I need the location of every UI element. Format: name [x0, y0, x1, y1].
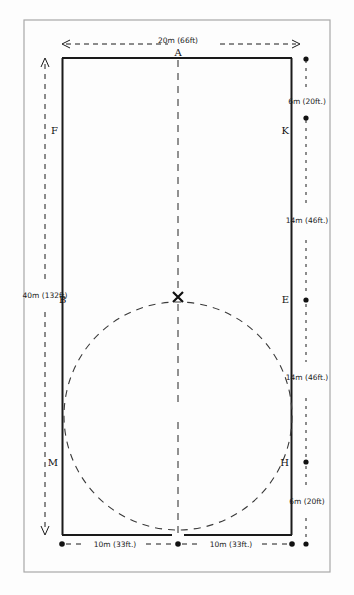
- top-dimension-label: 20m (66ft): [158, 36, 198, 45]
- left-dimension-arrow-down: [41, 526, 49, 535]
- right-dimension-label-6m-bottom: 6m (20ft): [289, 497, 324, 506]
- point-label-e: E: [282, 294, 289, 305]
- point-label-m: M: [48, 457, 58, 468]
- right-station-dot-e: [303, 297, 308, 302]
- point-label-h: H: [280, 457, 289, 468]
- right-station-dot-top: [303, 56, 308, 61]
- bottom-dimension-label-right: 10m (33ft.): [210, 540, 253, 549]
- bottom-dimension-label-left: 10m (33ft.): [94, 540, 137, 549]
- right-dimension-label-14m-lower: 14m (46ft.): [286, 373, 329, 382]
- point-label-a: A: [173, 47, 182, 58]
- center-x-mark: [173, 292, 183, 302]
- point-label-b: B: [59, 294, 66, 305]
- right-station-dot-k: [303, 115, 308, 120]
- drawing-sheet: 20m (66ft): [0, 0, 354, 595]
- bottom-station-dot-center: [175, 541, 181, 547]
- right-station-dot-bottom: [303, 541, 308, 546]
- right-station-dot-h: [303, 459, 308, 464]
- bottom-station-dot-left: [59, 541, 65, 547]
- point-label-f: F: [51, 125, 58, 136]
- bottom-dimension-group: 10m (33ft.) 10m (33ft.): [59, 540, 295, 549]
- point-label-k: K: [282, 125, 290, 136]
- bottom-station-dot-right: [289, 541, 295, 547]
- field-layout-diagram: 20m (66ft): [0, 0, 354, 595]
- right-dimension-label-14m-upper: 14m (46ft.): [286, 216, 329, 225]
- right-dimension-label-6m-top: 6m (20ft.): [288, 97, 326, 106]
